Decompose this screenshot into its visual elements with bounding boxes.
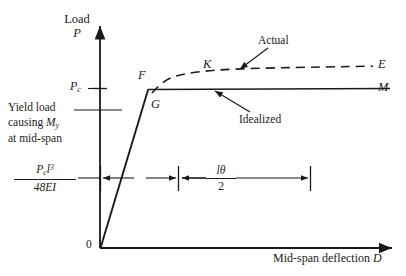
yield-note-line-1: Yield load	[8, 100, 62, 115]
elastic-deflection-expression: Pcl3 48EI	[14, 163, 76, 194]
point-label-m: M	[378, 80, 388, 94]
rotation-numerator: lθ	[206, 164, 236, 178]
pc-subscript: c	[77, 85, 81, 94]
y-axis-label: Load P	[57, 12, 97, 40]
elastic-deflection-denominator: 48EI	[14, 179, 76, 194]
pc-tick-label: Pc	[70, 80, 81, 94]
x-axis-label-symbol: D	[373, 251, 382, 265]
point-label-e: E	[378, 57, 386, 71]
idealized-plateau-line	[148, 89, 391, 90]
rotation-denominator: 2	[206, 178, 236, 193]
x-axis-label: Mid-span deflection D	[273, 252, 382, 265]
x-axis-label-text: Mid-span deflection	[273, 251, 370, 265]
moment-subscript: y	[56, 121, 59, 130]
elastic-deflection-numerator: Pcl3	[14, 163, 76, 179]
origin-label: 0	[86, 238, 92, 251]
point-label-k: K	[203, 57, 211, 71]
yield-note-line-2-text: causing	[8, 116, 46, 128]
actual-annotation-leader	[240, 48, 268, 69]
elastic-branch-line	[101, 90, 149, 248]
y-axis-label-text: Load	[64, 12, 90, 26]
y-axis-label-symbol: P	[57, 26, 97, 40]
point-label-g: G	[151, 97, 160, 111]
figure-canvas: Load P Mid-span deflection D Pc 0 Yield …	[0, 0, 406, 276]
yield-note-line-2: causing My	[8, 115, 62, 131]
point-label-f: F	[138, 68, 146, 82]
idealized-curve-annotation: Idealized	[239, 113, 281, 126]
yield-note-line-3: at mid-span	[8, 131, 62, 146]
idealized-annotation-leader	[215, 91, 250, 112]
plastic-rotation-expression: lθ 2	[206, 164, 236, 193]
moment-symbol: M	[46, 116, 56, 128]
actual-curve-annotation: Actual	[258, 34, 289, 47]
numerator-l-exponent: 3	[50, 163, 54, 172]
yield-load-note: Yield load causing My at mid-span	[8, 100, 62, 146]
